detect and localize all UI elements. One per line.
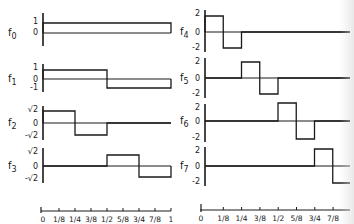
x-tick-label: 3/8 (254, 214, 266, 223)
y-tick-label: √2 (28, 105, 38, 114)
y-tick-label: 0 (33, 162, 38, 171)
y-tick-label: -2 (192, 43, 200, 52)
function-label: f0 (8, 27, 17, 41)
y-tick-label: -2 (192, 177, 200, 186)
y-tick-label: 1 (33, 17, 38, 26)
function-label: f6 (180, 115, 189, 129)
plot-f0: f010 (8, 13, 171, 46)
plot-f7: f720-2 (180, 146, 350, 186)
x-tick-label: 7/8 (327, 214, 339, 223)
haar-basis-figure: f010f110-1f2√20-√2f3√20-√201/81/43/81/25… (0, 0, 354, 224)
function-label: f4 (180, 26, 189, 40)
y-tick-label: 0 (33, 28, 38, 37)
y-tick-label: 2 (195, 103, 200, 112)
y-tick-label: -1 (30, 83, 38, 92)
waveform-f6 (205, 103, 350, 139)
x-tick-label: 0 (199, 214, 204, 223)
x-tick-label: 1/8 (53, 215, 65, 224)
plot-f3: f3√20-√2 (8, 147, 171, 183)
x-tick-label: 1/8 (217, 214, 229, 223)
right-panel: f420-2f520-2f620-2f720-201/81/43/81/25/8… (180, 9, 350, 223)
function-label: f5 (180, 72, 189, 86)
waveform-f5 (205, 62, 350, 94)
x-tick-label: 3/8 (85, 215, 97, 224)
y-tick-label: 0 (195, 74, 200, 83)
x-axis: 01/81/43/81/25/83/47/81 (41, 207, 174, 224)
x-tick-label: 3/4 (309, 214, 321, 223)
y-tick-label: 1 (33, 63, 38, 72)
y-tick-label: 2 (195, 57, 200, 66)
y-tick-label: -√2 (25, 131, 38, 140)
y-tick-label: 0 (33, 119, 38, 128)
x-tick-label: 7/8 (149, 215, 161, 224)
x-tick-label: 1 (169, 215, 174, 224)
plot-f4: f420-2 (180, 9, 350, 52)
x-tick-label: 5/8 (117, 215, 129, 224)
x-tick-label: 3/4 (133, 215, 145, 224)
y-tick-label: -2 (192, 89, 200, 98)
function-label: f3 (8, 160, 17, 174)
y-tick-label: 0 (195, 117, 200, 126)
function-label: f7 (180, 160, 189, 174)
x-axis: 01/81/43/81/25/83/47/8 (199, 204, 350, 223)
x-tick-label: 1/2 (101, 215, 113, 224)
plot-f6: f620-2 (180, 103, 350, 142)
x-tick-label: 1/2 (272, 214, 284, 223)
plot-f1: f110-1 (8, 63, 171, 92)
x-tick-label: 5/8 (290, 214, 302, 223)
y-tick-label: 2 (195, 146, 200, 155)
y-tick-label: 0 (195, 28, 200, 37)
x-tick-label: 1/4 (69, 215, 81, 224)
plot-f5: f520-2 (180, 57, 350, 98)
y-tick-label: 2 (195, 9, 200, 18)
scan-edge-shadow (340, 0, 354, 224)
x-tick-label: 0 (41, 215, 46, 224)
function-label: f1 (8, 73, 17, 87)
y-tick-label: 0 (195, 162, 200, 171)
left-panel: f010f110-1f2√20-√2f3√20-√201/81/43/81/25… (8, 13, 174, 224)
plot-f2: f2√20-√2 (8, 105, 171, 140)
waveform-f0 (43, 23, 171, 33)
y-tick-label: -√2 (25, 174, 38, 183)
y-tick-label: √2 (28, 147, 38, 156)
y-tick-label: -2 (192, 133, 200, 142)
function-label: f2 (8, 117, 17, 131)
x-tick-label: 1/4 (236, 214, 248, 223)
